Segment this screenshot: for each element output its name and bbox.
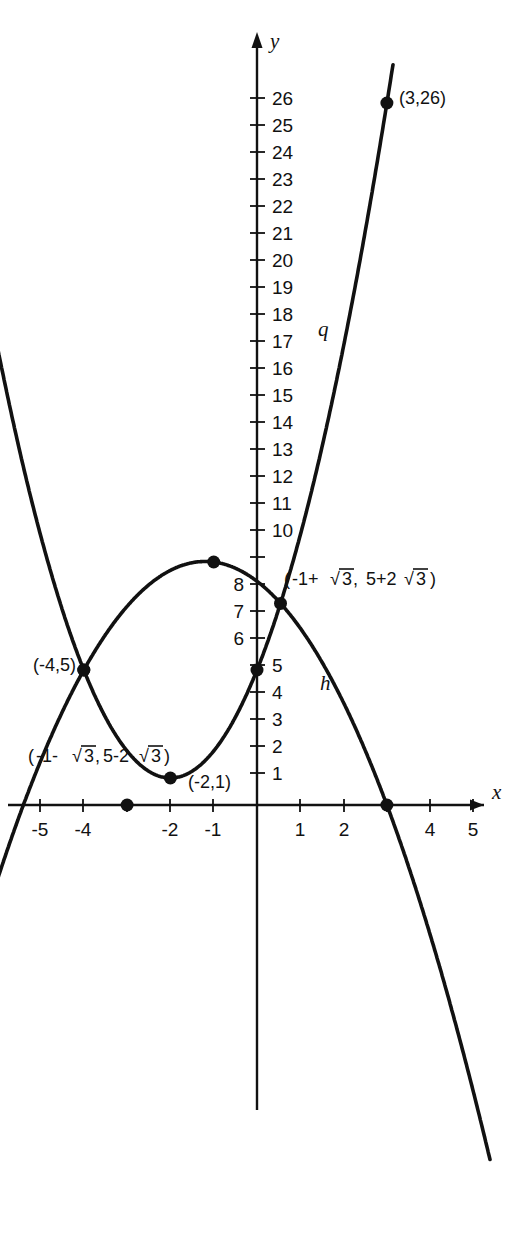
point-root-neg3	[121, 799, 134, 812]
y-tick-label-1: 1	[272, 763, 283, 784]
il-yrad: 3	[151, 746, 161, 766]
x-tick-label-4: 4	[425, 819, 436, 840]
intersection-upper-label: ( -1+ √ 3 , 5+2 √ 3 )	[284, 569, 436, 589]
il-close: )	[164, 746, 170, 766]
y-tick-label-16: 16	[272, 358, 293, 379]
y-tick-label-20: 20	[272, 250, 293, 271]
y-tick-label-5: 5	[272, 655, 283, 676]
point-root-3	[380, 799, 393, 812]
x-tick-label--4: -4	[75, 819, 92, 840]
y-tick-label-19: 19	[272, 277, 293, 298]
curve-h-path	[0, 562, 490, 1160]
iu-close: )	[430, 569, 436, 589]
iu-xrad: 3	[342, 569, 352, 589]
curve-label-h: h	[320, 671, 331, 695]
point-intersection-lower	[77, 664, 90, 677]
x-tick-label-5: 5	[468, 819, 479, 840]
y-tick-label-14: 14	[272, 412, 294, 433]
y-tick-label-8: 8	[233, 574, 244, 595]
label-point-3-26: (3,26)	[399, 88, 446, 108]
point-neg2-1	[164, 772, 177, 785]
il-xroot-sign: √	[72, 746, 82, 766]
x-tick-label-1: 1	[295, 819, 306, 840]
point-vertex-h	[207, 556, 220, 569]
y-tick-label-2: 2	[272, 736, 283, 757]
y-tick-label-25: 25	[272, 115, 293, 136]
x-tick-label--2: -2	[162, 819, 179, 840]
curve-layer	[0, 65, 490, 1160]
y-axis-arrowhead	[252, 32, 263, 48]
y-tick-label-10: 10	[272, 520, 293, 541]
il-comma: ,	[95, 746, 100, 766]
il-xpre: -1-	[36, 746, 58, 766]
iu-yrad: 3	[416, 569, 426, 589]
il-open: (	[28, 746, 34, 766]
label-point-neg4-5: (-4,5)	[33, 655, 76, 675]
iu-comma: ,	[353, 569, 358, 589]
il-ypre: 5-2	[103, 746, 129, 766]
x-tick-label-group: -5 -4 -2 -1 1 2 4 5	[32, 819, 479, 840]
y-tick-label-4: 4	[272, 682, 283, 703]
intersection-lower-label: ( -1- √ 3 , 5-2 √ 3 )	[28, 746, 170, 766]
iu-open: (	[284, 569, 290, 589]
iu-ypre: 5+2	[366, 569, 397, 589]
y-tick-label-12: 12	[272, 466, 293, 487]
x-tick-label--5: -5	[32, 819, 49, 840]
y-tick-label-24: 24	[272, 142, 294, 163]
y-axis-label: y	[268, 29, 280, 53]
x-axis-label: x	[491, 780, 502, 804]
y-tick-label-13: 13	[272, 439, 293, 460]
y-tick-label-26: 26	[272, 88, 293, 109]
y-tick-label-3: 3	[272, 709, 283, 730]
coordinate-graph: -5 -4 -2 -1 1 2 4 5	[0, 0, 521, 1250]
iu-yroot-sign: √	[404, 569, 414, 589]
curve-label-q: q	[318, 317, 329, 341]
y-tick-label-15: 15	[272, 385, 293, 406]
y-tick-label-22: 22	[272, 196, 293, 217]
x-tick-label-2: 2	[339, 819, 350, 840]
point-3-26	[380, 97, 393, 110]
graph-page: -5 -4 -2 -1 1 2 4 5	[0, 0, 521, 1250]
y-tick-label-17: 17	[272, 331, 293, 352]
iu-xpre: -1+	[292, 569, 319, 589]
y-tick-label-23: 23	[272, 169, 293, 190]
y-tick-label-group-left: 8 7 6	[233, 574, 244, 649]
y-tick-label-group-right: 26 25 24 23 22 21 20 19 18 17 16 15 14 1…	[272, 88, 294, 784]
y-tick-label-18: 18	[272, 304, 293, 325]
label-point-neg2-1: (-2,1)	[188, 772, 231, 792]
il-yroot-sign: √	[139, 746, 149, 766]
y-tick-label-21: 21	[272, 223, 293, 244]
point-intersection-upper	[274, 597, 287, 610]
iu-xroot-sign: √	[330, 569, 340, 589]
point-0-5	[251, 664, 264, 677]
y-tick-label-7: 7	[233, 601, 244, 622]
y-tick-label-11: 11	[272, 493, 292, 514]
il-xrad: 3	[84, 746, 94, 766]
x-tick-label--1: -1	[205, 819, 222, 840]
y-tick-label-6: 6	[233, 628, 244, 649]
